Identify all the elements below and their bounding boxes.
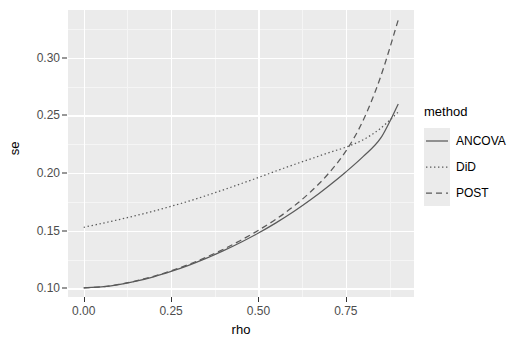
x-axis-tick-mark xyxy=(258,297,259,302)
y-axis-tick-label: 0.20 xyxy=(37,166,60,180)
legend-label: POST xyxy=(456,186,489,200)
series-layer xyxy=(68,10,414,297)
y-axis-tick-label: 0.15 xyxy=(37,224,60,238)
y-axis-tick-label: 0.30 xyxy=(37,51,60,65)
series-line-ancova xyxy=(84,104,399,288)
x-axis-tick-label: 0.25 xyxy=(159,304,182,318)
chart-plot: se 0.100.150.200.250.30 rho method ANCOV… xyxy=(0,0,530,351)
y-axis-tick-mark xyxy=(62,173,67,174)
legend-item-did[interactable]: DiD xyxy=(424,154,528,180)
y-axis-tick-label: 0.25 xyxy=(37,108,60,122)
x-axis-tick-label: 0.00 xyxy=(72,304,95,318)
legend-label: ANCOVA xyxy=(456,134,506,148)
series-line-did xyxy=(84,112,399,227)
y-axis-tick-mark xyxy=(62,288,67,289)
series-line-post xyxy=(84,20,399,288)
legend-items: ANCOVADiDPOST xyxy=(424,128,528,206)
x-axis-tick-label: 0.75 xyxy=(334,304,357,318)
legend-key-ancova-icon xyxy=(424,128,450,154)
y-axis-tick-mark xyxy=(62,57,67,58)
legend-label: DiD xyxy=(456,160,476,174)
x-axis-tick-mark xyxy=(346,297,347,302)
legend-item-ancova[interactable]: ANCOVA xyxy=(424,128,528,154)
legend-title: method xyxy=(424,104,528,119)
x-axis-tick-mark xyxy=(171,297,172,302)
plot-panel xyxy=(68,10,414,297)
x-axis-tick-mark xyxy=(84,297,85,302)
y-axis-tick-mark xyxy=(62,115,67,116)
legend: method ANCOVADiDPOST xyxy=(424,104,528,206)
y-axis-tick-label: 0.10 xyxy=(37,281,60,295)
legend-item-post[interactable]: POST xyxy=(424,180,528,206)
y-axis-tick-mark xyxy=(62,230,67,231)
x-axis-title: rho xyxy=(68,322,414,337)
y-axis-tick-labels: 0.100.150.200.250.30 xyxy=(20,0,60,297)
legend-key-did-icon xyxy=(424,154,450,180)
legend-key-post-icon xyxy=(424,180,450,206)
x-axis-tick-label: 0.50 xyxy=(247,304,270,318)
